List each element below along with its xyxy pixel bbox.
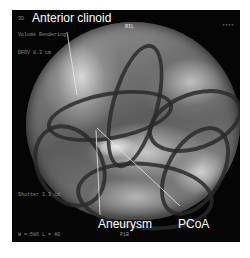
annotation-leader-lines xyxy=(12,10,240,242)
label-aneurysm: Aneurysm xyxy=(98,217,152,231)
volume-render-viewport: 3D RIL Volume Rendering DFOV 8.3 cm Shut… xyxy=(12,10,240,242)
label-anterior-clinoid: Anterior clinoid xyxy=(32,11,111,25)
label-pcoa: PCoA xyxy=(178,217,209,231)
